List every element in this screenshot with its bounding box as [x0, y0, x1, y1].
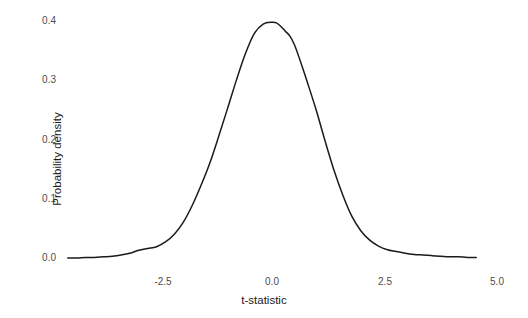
density-plot-figure: 0.4 0.3 0.2 0.1 0.0 -2.5 0.0 2.5 5.0 Pro…	[0, 0, 528, 318]
density-curve-line	[68, 22, 476, 258]
plot-area	[0, 0, 528, 318]
